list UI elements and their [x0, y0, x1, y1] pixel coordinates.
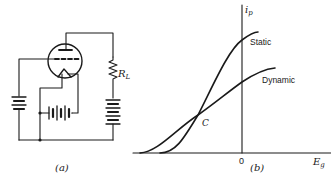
plate-battery-icon [106, 100, 120, 124]
panel-a-caption: (a) [55, 162, 69, 173]
y-axis-label: ip [245, 4, 253, 17]
grid-wire [19, 59, 55, 96]
plate-wire [66, 33, 113, 57]
circuit-diagram: RL [12, 33, 131, 173]
characteristic-graph: ip Static Dynamic C 0 Eg (b) [133, 4, 331, 173]
origin-label: 0 [239, 156, 244, 166]
cathode-filament-icon [58, 69, 71, 77]
filament-battery-icon [40, 106, 72, 120]
x-axis-label: Eg [312, 156, 325, 169]
junction-dot [38, 138, 41, 141]
cathode-lead-right [68, 74, 78, 113]
junction-dot [38, 111, 41, 114]
figure: RL [0, 0, 331, 179]
point-c-label: C [202, 118, 209, 128]
panel-b-caption: (b) [250, 162, 264, 173]
resistor-label: RL [117, 68, 131, 81]
dynamic-label: Dynamic [262, 75, 296, 85]
load-resistor-icon [109, 57, 117, 98]
cathode-lead-left [40, 74, 62, 140]
static-curve [160, 32, 258, 153]
static-label: Static [250, 37, 272, 47]
dynamic-curve [140, 68, 275, 153]
grid-bias-battery-icon [12, 97, 26, 109]
